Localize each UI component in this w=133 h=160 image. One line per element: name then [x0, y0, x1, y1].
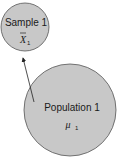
sample-node: Sample 1 X 1: [1, 3, 49, 51]
population-mean-symbol: μ: [64, 119, 70, 130]
population-node: Population 1 μ 1: [24, 64, 116, 156]
sampling-diagram: Population 1 μ 1 Sample 1 X 1: [0, 0, 133, 160]
sample-label: Sample 1: [5, 17, 48, 28]
sample-mean-symbol: X: [19, 34, 27, 45]
population-label: Population 1: [44, 102, 100, 113]
